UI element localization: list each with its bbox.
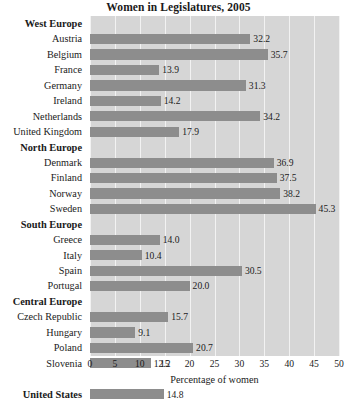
bar-rows: 32.235.713.931.314.234.217.936.937.538.2… (90, 16, 339, 356)
bar-row[interactable]: 34.2 (90, 109, 339, 124)
bar-value-label: 14.8 (167, 388, 184, 401)
bar-row[interactable]: 30.5 (90, 263, 339, 278)
x-tick-35: 35 (260, 358, 270, 369)
bar-value-label: 34.2 (263, 110, 280, 123)
x-tick-5: 5 (112, 358, 117, 369)
x-tick-20: 20 (185, 358, 195, 369)
country-label: Greece (0, 232, 86, 247)
bar-row[interactable]: 9.1 (90, 325, 339, 340)
x-axis-ticks: 05101520253035404550 (90, 358, 339, 374)
group-row (90, 294, 339, 309)
bar-row[interactable]: 36.9 (90, 155, 339, 170)
country-label: Poland (0, 340, 86, 355)
bar-row[interactable]: 20.0 (90, 278, 339, 293)
bar-row[interactable]: 10.4 (90, 248, 339, 263)
bar[interactable] (90, 188, 280, 198)
group-row (90, 140, 339, 155)
bar[interactable] (90, 266, 242, 276)
country-label: Belgium (0, 47, 86, 62)
country-label: Denmark (0, 155, 86, 170)
country-label: Italy (0, 248, 86, 263)
x-tick-50: 50 (334, 358, 344, 369)
bar-value-label: 30.5 (245, 264, 262, 277)
country-label: United Kingdom (0, 124, 86, 139)
country-label: Finland (0, 170, 86, 185)
bar[interactable] (90, 65, 159, 75)
bar[interactable] (90, 235, 160, 245)
plot-area: 32.235.713.931.314.234.217.936.937.538.2… (90, 16, 339, 356)
bar[interactable] (90, 111, 260, 121)
bar-value-label: 37.5 (280, 171, 297, 184)
group-row (90, 217, 339, 232)
bar-row[interactable]: 13.9 (90, 62, 339, 77)
x-tick-10: 10 (135, 358, 145, 369)
country-label: Slovenia (0, 356, 86, 371)
bar-row[interactable]: 14.0 (90, 232, 339, 247)
bar-row[interactable]: 38.2 (90, 186, 339, 201)
country-label: France (0, 62, 86, 77)
country-label: Austria (0, 31, 86, 46)
x-tick-30: 30 (235, 358, 245, 369)
chart-title: Women in Legislatures, 2005 (0, 1, 357, 13)
bar-row[interactable]: 14.8 (90, 387, 339, 402)
bar-value-label: 15.7 (171, 310, 188, 323)
country-label: Spain (0, 263, 86, 278)
x-tick-0: 0 (88, 358, 93, 369)
bar-row[interactable]: 20.7 (90, 340, 339, 355)
bar-value-label: 38.2 (283, 187, 300, 200)
bar[interactable] (90, 281, 190, 291)
gridline-50 (339, 16, 340, 356)
bar[interactable] (90, 343, 193, 353)
country-label: Hungary (0, 325, 86, 340)
x-tick-15: 15 (160, 358, 170, 369)
bar-row[interactable]: 31.3 (90, 78, 339, 93)
bar-value-label: 32.2 (253, 32, 270, 45)
bar[interactable] (90, 204, 316, 214)
country-label: Netherlands (0, 109, 86, 124)
bar-row[interactable]: 14.2 (90, 93, 339, 108)
country-label: Portugal (0, 278, 86, 293)
country-label: Sweden (0, 201, 86, 216)
bar-value-label: 36.9 (277, 156, 294, 169)
bar-value-label: 9.1 (138, 326, 150, 339)
bar[interactable] (90, 34, 250, 44)
bar-value-label: 20.7 (196, 341, 213, 354)
bar[interactable] (90, 389, 164, 399)
bar-row[interactable]: 35.7 (90, 47, 339, 62)
bar-row[interactable]: 32.2 (90, 31, 339, 46)
country-label: Germany (0, 78, 86, 93)
bar[interactable] (90, 158, 274, 168)
bar-row[interactable]: 37.5 (90, 170, 339, 185)
bar-row[interactable]: 17.9 (90, 124, 339, 139)
category-axis-labels: West EuropeAustriaBelgiumFranceGermanyIr… (0, 16, 86, 356)
bar-value-label: 45.3 (319, 202, 336, 215)
bar-value-label: 35.7 (271, 48, 288, 61)
bar[interactable] (90, 96, 161, 106)
bar-row[interactable]: 45.3 (90, 201, 339, 216)
bar[interactable] (90, 327, 135, 337)
bar-row[interactable]: 15.7 (90, 309, 339, 324)
group-label: United States (0, 387, 86, 402)
x-tick-25: 25 (210, 358, 220, 369)
bar-value-label: 14.2 (164, 94, 181, 107)
x-axis-label: Percentage of women (90, 374, 339, 385)
bar-value-label: 14.0 (163, 233, 180, 246)
group-label: North Europe (0, 140, 86, 155)
x-tick-40: 40 (284, 358, 294, 369)
bar[interactable] (90, 49, 268, 59)
x-tick-45: 45 (309, 358, 319, 369)
bar[interactable] (90, 173, 277, 183)
bar[interactable] (90, 80, 246, 90)
bar-value-label: 20.0 (193, 279, 210, 292)
group-row (90, 16, 339, 31)
bar-value-label: 13.9 (162, 63, 179, 76)
bar[interactable] (90, 250, 142, 260)
group-label: South Europe (0, 217, 86, 232)
group-label: West Europe (0, 16, 86, 31)
country-label: Czech Republic (0, 309, 86, 324)
chart-figure: Women in Legislatures, 2005 West EuropeA… (0, 0, 357, 409)
bar[interactable] (90, 127, 179, 137)
bar-value-label: 10.4 (145, 249, 162, 262)
bar[interactable] (90, 312, 168, 322)
country-label: Norway (0, 186, 86, 201)
